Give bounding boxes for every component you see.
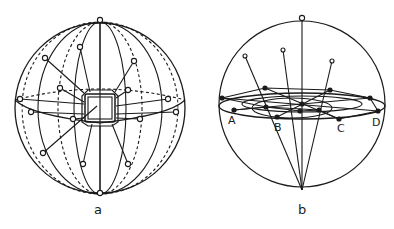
panel-a-sphere bbox=[15, 20, 185, 194]
point-label-c: C bbox=[337, 122, 345, 135]
figure-canvas bbox=[0, 0, 394, 229]
panel-label-a: a bbox=[94, 202, 102, 217]
panel-label-b: b bbox=[298, 202, 306, 217]
point-label-b: B bbox=[274, 121, 282, 134]
point-label-d: D bbox=[372, 116, 380, 129]
point-label-a: A bbox=[228, 114, 236, 127]
